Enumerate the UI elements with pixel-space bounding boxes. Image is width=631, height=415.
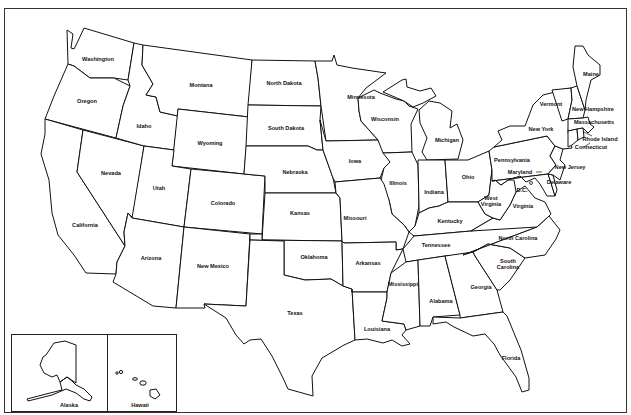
- dc-marker: [530, 182, 533, 185]
- state-label-nc: North Carolina: [499, 235, 538, 241]
- state-label-ks: Kansas: [290, 210, 310, 216]
- state-label-mt: Montana: [190, 82, 213, 88]
- state-label-ms: Mississippi: [388, 281, 418, 287]
- state-label-mn: Minnesota: [347, 94, 375, 100]
- state-label-vt: Vermont: [540, 101, 562, 107]
- state-label-fl: Florida: [502, 355, 521, 361]
- state-label-in: Indiana: [424, 189, 444, 195]
- state-label-nd: North Dakota: [266, 80, 301, 86]
- hawaii-inset: [107, 334, 177, 412]
- state-label-sc: SouthCarolina: [497, 258, 519, 270]
- state-KS: [262, 193, 342, 241]
- state-label-tn: Tennessee: [422, 242, 451, 248]
- hawaii-label: Hawaii: [131, 402, 149, 408]
- state-label-nj: New Jersey: [555, 164, 586, 170]
- state-label-mi: Michigan: [435, 137, 459, 143]
- state-label-ma: Massachusetts: [574, 119, 614, 125]
- state-label-pa: Pennsylvania: [494, 157, 530, 163]
- state-label-ar: Arkansas: [355, 260, 380, 266]
- state-FL: [433, 312, 529, 392]
- state-label-wv: WestVirginia: [481, 195, 501, 207]
- state-label-ok: Oklahoma: [300, 254, 327, 260]
- hawaii-shape: [108, 335, 178, 411]
- state-label-ia: Iowa: [349, 158, 361, 164]
- state-label-id: Idaho: [137, 123, 152, 129]
- alaska-inset: [11, 334, 108, 412]
- state-label-az: Arizona: [141, 255, 162, 261]
- state-label-dc: D.C.: [516, 187, 527, 193]
- state-label-va: Virginia: [513, 203, 533, 209]
- state-label-me: Maine: [583, 71, 599, 77]
- state-label-wy: Wyoming: [197, 140, 222, 146]
- state-label-ca: California: [72, 222, 98, 228]
- state-label-or: Oregon: [77, 98, 97, 104]
- alaska-label: Alaska: [60, 402, 78, 408]
- alaska-shape: [12, 335, 107, 411]
- state-label-nv: Nevada: [101, 170, 121, 176]
- state-label-nm: New Mexico: [197, 263, 229, 269]
- state-label-il: Illinois: [389, 180, 407, 186]
- state-label-sd: South Dakota: [268, 125, 304, 131]
- state-label-ky: Kentucky: [437, 218, 462, 224]
- state-label-mo: Missouri: [343, 215, 366, 221]
- state-label-ne: Nebraska: [282, 169, 307, 175]
- state-label-ut: Utah: [153, 185, 165, 191]
- state-label-ct: Connecticut: [575, 144, 607, 150]
- state-label-tx: Texas: [287, 310, 302, 316]
- state-label-ny: New York: [529, 126, 554, 132]
- state-label-de: Delaware: [547, 179, 572, 185]
- state-label-oh: Ohio: [462, 174, 475, 180]
- state-label-al: Alabama: [429, 298, 452, 304]
- state-label-ri: Rhode Island: [582, 136, 617, 142]
- state-label-ga: Georgia: [470, 284, 491, 290]
- state-label-wi: Wisconsin: [371, 116, 399, 122]
- state-label-nh: New Hampshire: [572, 106, 614, 112]
- state-label-co: Colorado: [211, 200, 236, 206]
- state-label-md: Maryland: [508, 169, 533, 175]
- state-label-wa: Washington: [82, 56, 114, 62]
- state-label-la: Louisiana: [364, 326, 390, 332]
